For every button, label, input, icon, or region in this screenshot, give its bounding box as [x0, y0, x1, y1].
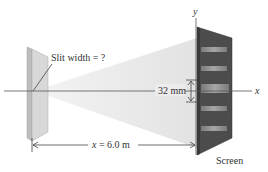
- screen-label: Screen: [216, 155, 243, 166]
- fringe-band: [201, 47, 227, 52]
- fringe-band: [201, 126, 227, 131]
- y-axis-label: y: [192, 6, 198, 17]
- x-axis-label: x: [254, 85, 260, 96]
- slit-width-label: Slit width = ?: [51, 52, 106, 63]
- fringe-band: [201, 106, 227, 111]
- fringe-spacing-label: 32 mm: [158, 85, 186, 96]
- fringe-band: [201, 66, 227, 71]
- central-maximum: [201, 84, 229, 93]
- distance-label: x = 6.0 m: [91, 139, 130, 150]
- distance-value: = 6.0 m: [96, 139, 130, 150]
- slit-barrier: [27, 47, 48, 141]
- diffraction-diagram: x y Slit width = ? 32 mm x = 6.0 m Scree…: [0, 0, 268, 172]
